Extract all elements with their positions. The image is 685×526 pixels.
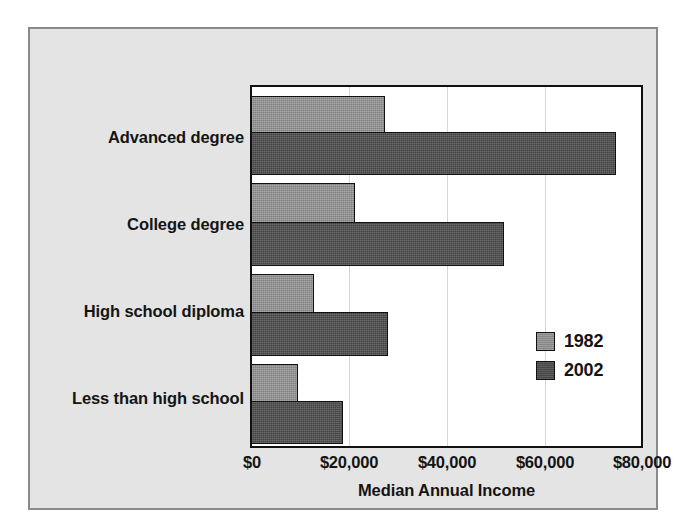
bar-high-school-diploma-1982 xyxy=(251,274,314,313)
chart-legend: 1982 2002 xyxy=(536,328,628,386)
chart-figure: Advanced degree College degree High scho… xyxy=(0,0,685,526)
y-axis-label-college-degree: College degree xyxy=(127,215,244,234)
legend-item-1982: 1982 xyxy=(536,328,628,354)
bar-advanced-degree-1982 xyxy=(251,96,385,133)
plot-area: 1982 2002 xyxy=(250,85,643,448)
chart-panel: Advanced degree College degree High scho… xyxy=(28,27,658,510)
legend-item-2002: 2002 xyxy=(536,357,628,383)
x-axis-title: Median Annual Income xyxy=(250,481,643,500)
y-axis-label-high-school-diploma: High school diploma xyxy=(84,302,244,321)
x-tick-label-60000: $60,000 xyxy=(516,453,574,472)
bar-less-than-high-school-1982 xyxy=(251,364,298,402)
legend-label-1982: 1982 xyxy=(564,331,603,352)
bar-less-than-high-school-2002 xyxy=(251,401,343,444)
bar-high-school-diploma-2002 xyxy=(251,312,388,356)
y-axis-category-labels: Advanced degree College degree High scho… xyxy=(30,29,244,508)
bar-college-degree-2002 xyxy=(251,222,504,266)
x-tick-label-20000: $20,000 xyxy=(320,453,378,472)
bar-college-degree-1982 xyxy=(251,183,355,223)
y-axis-label-advanced-degree: Advanced degree xyxy=(108,128,244,147)
x-tick-label-0: $0 xyxy=(243,453,261,472)
legend-swatch-1982-icon xyxy=(536,332,555,351)
bar-advanced-degree-2002 xyxy=(251,132,616,175)
legend-swatch-2002-icon xyxy=(536,361,555,380)
y-axis-label-less-than-high-school: Less than high school xyxy=(72,389,244,408)
x-tick-label-40000: $40,000 xyxy=(418,453,476,472)
legend-label-2002: 2002 xyxy=(564,360,603,381)
x-tick-label-80000: $80,000 xyxy=(613,453,671,472)
